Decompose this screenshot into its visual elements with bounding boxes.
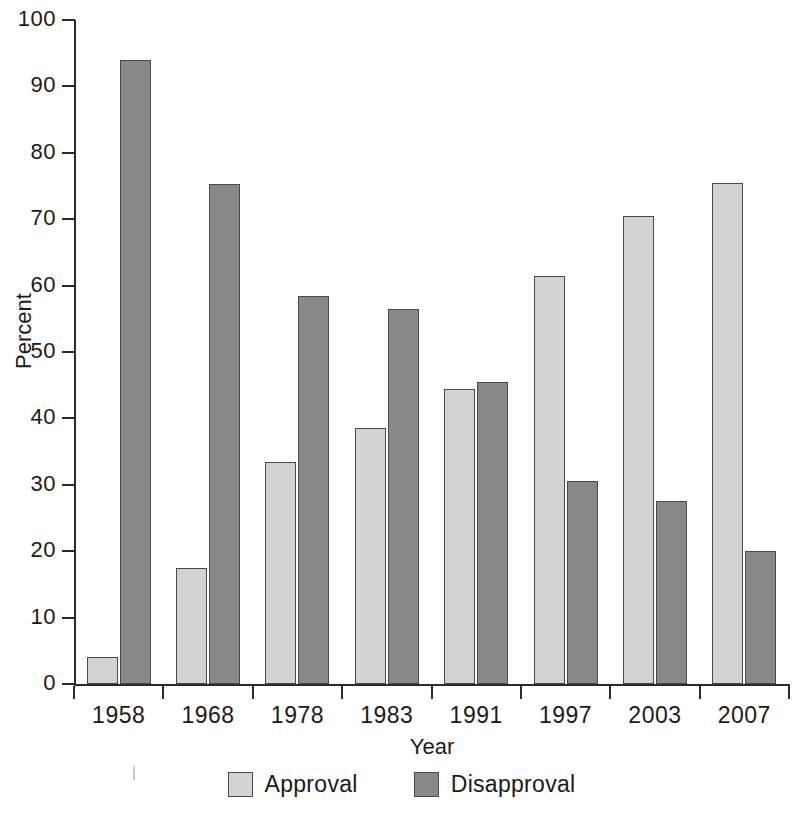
legend-item-disapproval: Disapproval xyxy=(414,772,576,797)
bar-1991-approval xyxy=(444,389,475,684)
y-axis-tick-label: 90 xyxy=(0,74,56,96)
legend-item-approval: Approval xyxy=(228,772,358,797)
x-axis-tick xyxy=(252,686,254,699)
bar-1983-disapproval xyxy=(388,309,419,684)
y-axis-tick-label: 0 xyxy=(0,672,56,694)
x-axis-tick xyxy=(341,686,343,699)
y-axis-tick-label-text: 60 xyxy=(8,274,56,296)
y-axis-tick-label-text: 0 xyxy=(8,672,56,694)
bar-2003-approval xyxy=(623,216,654,684)
bar-1978-approval xyxy=(265,462,296,684)
legend-label-disapproval: Disapproval xyxy=(451,772,576,797)
bar-1968-disapproval xyxy=(209,184,240,684)
y-axis-tick-label: 50 xyxy=(0,340,56,362)
y-axis-tick-label-text: 20 xyxy=(8,539,56,561)
y-axis-tick-label-text: 40 xyxy=(8,406,56,428)
disapproval-swatch xyxy=(414,772,439,797)
y-axis-tick-label-text: 90 xyxy=(8,74,56,96)
x-axis-tick xyxy=(788,686,790,699)
bar-1997-approval xyxy=(534,276,565,684)
x-axis-tick xyxy=(520,686,522,699)
y-axis-tick-label-text: 30 xyxy=(8,473,56,495)
plot-area xyxy=(74,20,789,684)
bar-2007-disapproval xyxy=(745,551,776,684)
bar-1958-disapproval xyxy=(120,60,151,684)
x-axis-tick xyxy=(699,686,701,699)
bar-1968-approval xyxy=(176,568,207,684)
x-axis-tick xyxy=(162,686,164,699)
y-axis-tick-label: 70 xyxy=(0,207,56,229)
bar-1991-disapproval xyxy=(477,382,508,684)
bar-2007-approval xyxy=(712,183,743,684)
y-axis-tick-label: 60 xyxy=(0,274,56,296)
bar-1997-disapproval xyxy=(567,481,598,684)
approval-swatch xyxy=(228,772,253,797)
x-axis-tick xyxy=(609,686,611,699)
y-axis-tick-label: 100 xyxy=(0,8,56,30)
bar-1983-approval xyxy=(355,428,386,684)
y-axis-tick-label: 30 xyxy=(0,473,56,495)
y-axis-tick-label: 80 xyxy=(0,141,56,163)
y-axis-tick-label-text: 100 xyxy=(8,8,56,30)
y-axis-tick-label: 10 xyxy=(0,606,56,628)
y-axis-tick-label: 40 xyxy=(0,406,56,428)
legend-label-approval: Approval xyxy=(265,772,358,797)
y-axis-tick-label: 20 xyxy=(0,539,56,561)
chart-legend: ApprovalDisapproval xyxy=(0,772,803,797)
y-axis-tick-label-text: 10 xyxy=(8,606,56,628)
bar-chart: Percent 0102030405060708090100 195819681… xyxy=(0,0,803,814)
x-axis-tick-label-2007: 2007 xyxy=(689,702,799,728)
bar-1978-disapproval xyxy=(298,296,329,684)
scan-artifact xyxy=(133,766,135,780)
x-axis-tick xyxy=(431,686,433,699)
y-axis-tick-label-text: 50 xyxy=(8,340,56,362)
x-axis-title: Year xyxy=(74,735,790,759)
y-axis-tick-label-text: 70 xyxy=(8,207,56,229)
x-axis-tick xyxy=(73,686,75,699)
y-axis-tick-label-text: 80 xyxy=(8,141,56,163)
bar-1958-approval xyxy=(87,657,118,684)
bar-2003-disapproval xyxy=(656,501,687,684)
